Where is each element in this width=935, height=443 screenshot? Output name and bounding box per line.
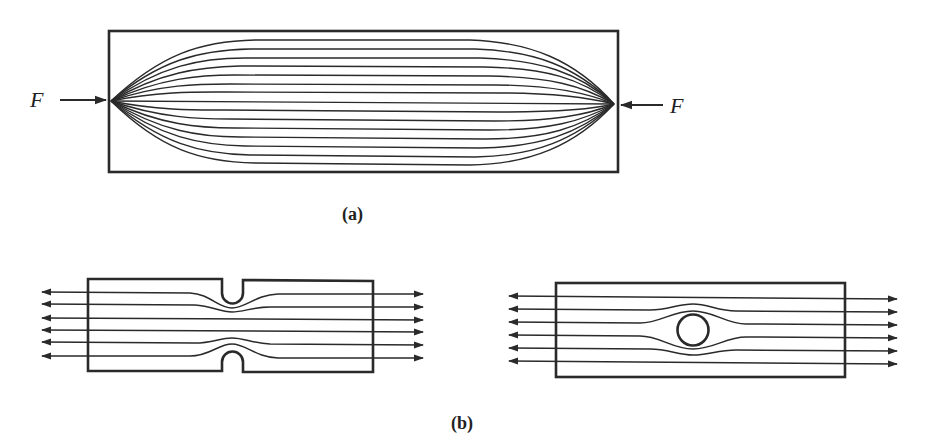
right-force-label: F bbox=[670, 93, 683, 119]
panel-b-label: (b) bbox=[451, 413, 473, 434]
stress-flow-figure bbox=[0, 0, 935, 443]
flow-lines bbox=[509, 296, 897, 364]
left-force-label: F bbox=[30, 87, 43, 113]
flow-lines bbox=[111, 40, 614, 165]
panel-b-holed-bar bbox=[509, 283, 897, 377]
circular-hole bbox=[678, 315, 709, 346]
panel-a-label: (a) bbox=[342, 204, 363, 225]
panel-b-notched-bar bbox=[42, 279, 423, 372]
panel-a bbox=[60, 31, 663, 172]
flow-lines bbox=[42, 292, 423, 358]
